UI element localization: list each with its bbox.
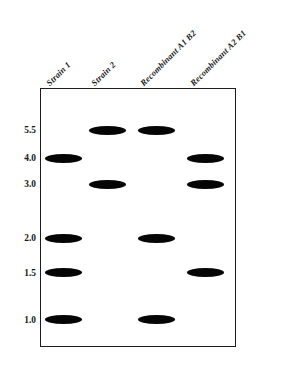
band-lane4-3-0: [187, 180, 224, 189]
gel-electrophoresis-figure: Strain 1Strain 2Recombinant A1 B2Recombi…: [0, 0, 282, 366]
gel-lane-3: [134, 89, 178, 346]
band-lane3-1-0: [138, 315, 175, 324]
band-lane1-4-0: [45, 154, 82, 163]
band-lane1-1-0: [45, 315, 82, 324]
band-lane1-1-5: [45, 268, 82, 277]
gel-box: [40, 88, 236, 347]
lane-label-4: Recombinant A2 B1: [189, 29, 248, 88]
band-lane4-4-0: [187, 154, 224, 163]
size-marker-5-5: 5.5: [24, 125, 36, 135]
gel-lane-1: [41, 89, 85, 346]
size-marker-1-5: 1.5: [24, 268, 36, 278]
band-lane2-3-0: [89, 180, 126, 189]
lane-label-2: Strain 2: [90, 61, 117, 88]
band-lane2-5-5: [89, 126, 126, 135]
lane-label-1: Strain 1: [44, 61, 71, 88]
gel-lane-2: [86, 89, 130, 346]
size-marker-4-0: 4.0: [24, 153, 36, 163]
band-lane1-2-0: [45, 234, 82, 243]
band-lane3-2-0: [138, 234, 175, 243]
size-marker-1-0: 1.0: [24, 315, 36, 325]
gel-lane-4: [184, 89, 228, 346]
size-marker-2-0: 2.0: [24, 233, 36, 243]
band-lane3-5-5: [138, 126, 175, 135]
size-marker-3-0: 3.0: [24, 179, 36, 189]
lane-label-group: Strain 1Strain 2Recombinant A1 B2Recombi…: [0, 0, 282, 88]
band-lane4-1-5: [187, 268, 224, 277]
size-marker-axis: 5.54.03.02.01.51.0: [0, 88, 40, 347]
